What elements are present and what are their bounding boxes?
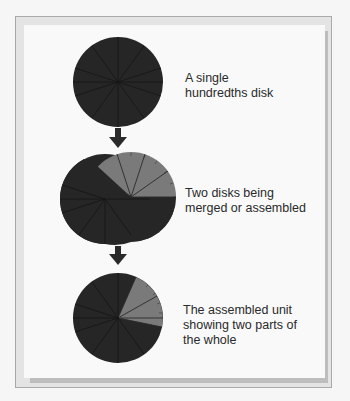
assembled-disk [73,273,163,363]
step-1-line-2: hundredths disk [185,86,273,101]
step-3-line-1: The assembled unit [183,303,297,318]
step-3-line-2: showing two parts of [183,318,297,333]
step-2-line-2: merged or assembled [185,201,306,216]
down-arrow-icon [109,128,127,148]
single-dark-disk [73,37,163,127]
step-3-caption: The assembled unit showing two parts of … [183,303,297,348]
step-2-line-1: Two disks being [185,186,306,201]
down-arrow-icon [109,246,127,265]
step-3-line-3: the whole [183,333,297,348]
merging-disks [60,152,176,245]
step-1-caption: A single hundredths disk [185,71,273,101]
step-1-line-1: A single [185,71,273,86]
step-2-caption: Two disks being merged or assembled [185,186,306,216]
